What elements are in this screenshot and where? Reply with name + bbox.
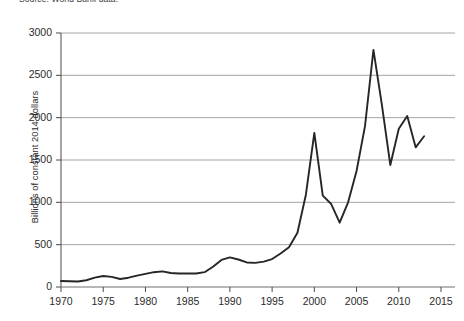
x-tick-label: 1975 (83, 295, 123, 307)
x-tick-label: 1970 (41, 295, 81, 307)
x-tick-label: 2010 (379, 295, 419, 307)
data-series-line (61, 50, 424, 282)
x-tick-marks (61, 287, 441, 292)
x-tick-label: 1985 (168, 295, 208, 307)
x-tick-label: 2015 (421, 295, 461, 307)
x-tick-label: 1995 (252, 295, 292, 307)
x-tick-label: 2000 (294, 295, 334, 307)
x-tick-label: 1980 (125, 295, 165, 307)
x-tick-label: 1990 (210, 295, 250, 307)
plot-area (0, 0, 464, 321)
chart-figure: Source: World Bank data. Billions of con… (0, 0, 464, 321)
x-tick-label: 2005 (337, 295, 377, 307)
y-tick-marks (56, 33, 61, 287)
